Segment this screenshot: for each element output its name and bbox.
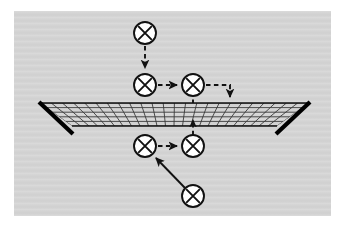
node-n5[interactable] — [182, 135, 204, 157]
perspective-grid-surface — [39, 102, 310, 134]
figure-container — [0, 0, 346, 227]
node-n2[interactable] — [134, 74, 156, 96]
node-n4[interactable] — [134, 135, 156, 157]
grid-vertical-lines — [40, 103, 309, 126]
node-n1[interactable] — [134, 22, 156, 44]
node-n3[interactable] — [182, 74, 204, 96]
arrow-node6-to-node4 — [156, 158, 185, 188]
diagram-canvas — [0, 0, 346, 227]
node-n6[interactable] — [182, 185, 204, 207]
arrow-node3-to-mesh — [206, 85, 230, 97]
grid-lines — [40, 103, 309, 126]
